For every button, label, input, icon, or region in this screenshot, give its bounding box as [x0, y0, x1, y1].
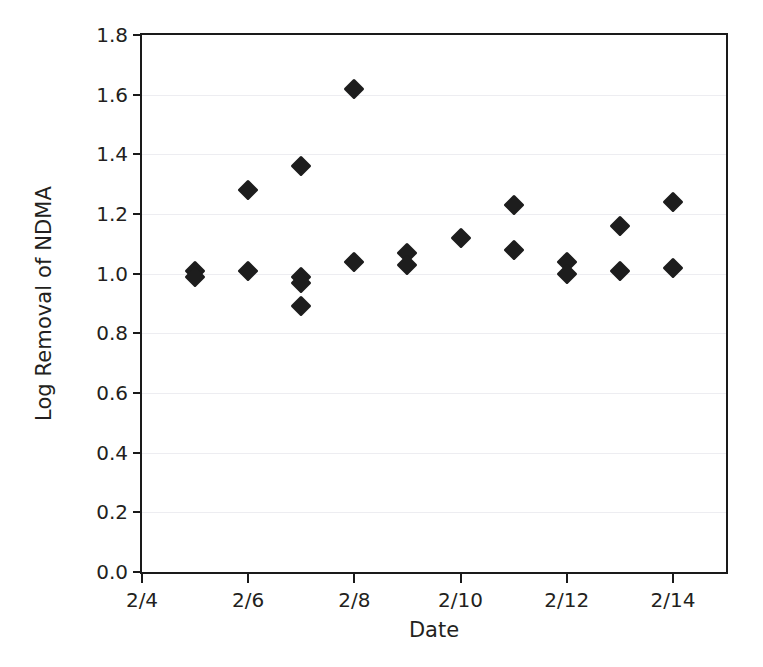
y-axis-tick-label: 0.4 — [96, 441, 128, 465]
data-point-marker — [662, 191, 683, 212]
gridline — [142, 333, 726, 334]
y-axis-title: Log Removal of NDMA — [22, 33, 66, 574]
data-point-marker — [609, 260, 630, 281]
x-axis-title: Date — [140, 618, 728, 642]
y-axis-tick — [133, 511, 142, 513]
y-axis-tick — [133, 332, 142, 334]
y-axis-tick — [133, 392, 142, 394]
gridline — [142, 154, 726, 155]
gridline — [142, 274, 726, 275]
y-axis-tick-label: 0.0 — [96, 560, 128, 584]
gridline — [142, 512, 726, 513]
data-point-marker — [238, 180, 259, 201]
y-axis-tick — [133, 213, 142, 215]
data-point-marker — [238, 260, 259, 281]
gridline — [142, 214, 726, 215]
data-point-marker — [662, 257, 683, 278]
data-point-marker — [450, 227, 471, 248]
x-axis-tick-label: 2/14 — [650, 588, 695, 612]
x-axis-tick — [141, 572, 143, 583]
data-point-marker — [291, 156, 312, 177]
data-point-marker — [344, 251, 365, 272]
y-axis-tick-label: 0.6 — [96, 381, 128, 405]
x-axis-tick — [566, 572, 568, 583]
y-axis-tick-label: 0.2 — [96, 500, 128, 524]
data-point-marker — [503, 194, 524, 215]
x-axis-tick — [353, 572, 355, 583]
y-axis-tick-label: 1.4 — [96, 142, 128, 166]
y-axis-tick-label: 1.2 — [96, 202, 128, 226]
data-point-marker — [503, 239, 524, 260]
x-axis-tick-label: 2/10 — [438, 588, 483, 612]
y-axis-tick — [133, 273, 142, 275]
x-axis-tick-label: 2/6 — [232, 588, 264, 612]
gridline — [142, 393, 726, 394]
y-axis-tick — [133, 452, 142, 454]
y-axis-tick-label: 1.6 — [96, 83, 128, 107]
y-axis-tick — [133, 94, 142, 96]
gridline — [142, 95, 726, 96]
x-axis-tick-label: 2/12 — [544, 588, 589, 612]
y-axis-tick — [133, 34, 142, 36]
x-axis-tick-label: 2/8 — [338, 588, 370, 612]
x-axis-tick-label: 2/4 — [126, 588, 158, 612]
data-point-marker — [344, 78, 365, 99]
x-axis-tick — [460, 572, 462, 583]
y-axis-tick-label: 0.8 — [96, 321, 128, 345]
x-axis-tick — [672, 572, 674, 583]
y-axis-tick-label: 1.0 — [96, 262, 128, 286]
data-point-marker — [609, 215, 630, 236]
plot-area: 0.00.20.40.60.81.01.21.41.61.82/42/62/82… — [140, 33, 728, 574]
y-axis-tick-label: 1.8 — [96, 23, 128, 47]
x-axis-tick — [247, 572, 249, 583]
data-point-marker — [556, 263, 577, 284]
y-axis-tick — [133, 153, 142, 155]
scatter-chart-figure: Log Removal of NDMA 0.00.20.40.60.81.01.… — [0, 0, 763, 667]
gridline — [142, 453, 726, 454]
data-point-marker — [291, 296, 312, 317]
